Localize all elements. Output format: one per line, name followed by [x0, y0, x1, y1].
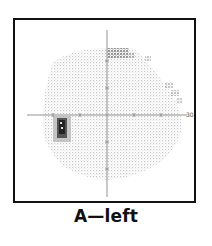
axis-end-label: 30 — [186, 111, 194, 118]
field-area — [15, 20, 194, 201]
visual-field-plot — [15, 20, 194, 201]
visual-field-frame: 30 — [13, 18, 196, 203]
figure-caption: A—left — [0, 206, 212, 226]
blind-spot — [53, 116, 71, 142]
